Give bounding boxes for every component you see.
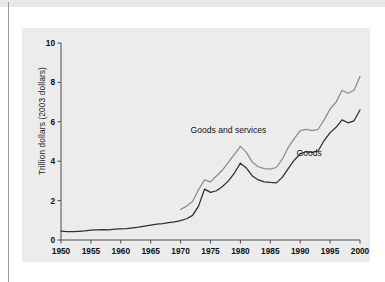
x-tick-label: 1975 [201,246,220,256]
y-tick-label: 2 [50,196,55,206]
series-label-goods-and-services: Goods and services [190,125,266,135]
x-tick-label: 1990 [291,246,310,256]
series-label-goods: Goods [297,148,322,158]
y-tick-label: 6 [50,117,55,127]
y-tick-label: 10 [46,38,56,48]
y-tick-label: 4 [50,156,55,166]
figure-page: Trillion dollars (2003 dollars) 02468101… [0,0,385,282]
x-tick-label: 1980 [231,246,250,256]
y-tick-label: 0 [50,235,55,245]
x-tick-label: 1995 [321,246,340,256]
x-tick-label: 1960 [112,246,131,256]
x-tick-label: 1985 [261,246,280,256]
line-chart: 0246810195019551960196519701975198019851… [22,28,370,262]
x-tick-label: 2000 [351,246,370,256]
x-tick-label: 1950 [52,246,71,256]
chart-panel: Trillion dollars (2003 dollars) 02468101… [22,28,370,262]
y-tick-label: 8 [50,77,55,87]
top-band [0,0,385,7]
x-tick-label: 1970 [171,246,190,256]
x-tick-label: 1955 [82,246,101,256]
left-vertical-rule [8,2,9,282]
x-tick-label: 1965 [141,246,160,256]
series-line-goods-and-services [181,76,360,209]
